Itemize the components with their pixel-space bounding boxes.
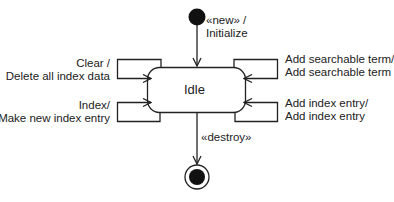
create-action: Initialize [206, 27, 248, 40]
final-state-inner-dot [189, 169, 205, 185]
index-trigger: Index/ [0, 99, 110, 112]
add-term-action: Add searchable term [285, 66, 394, 79]
add-term-trigger: Add searchable term/ [285, 53, 394, 66]
create-trigger: «new» / [206, 14, 248, 27]
add-entry-action: Add index entry [285, 110, 368, 123]
add-entry-trigger: Add index entry/ [285, 97, 368, 110]
index-transition-label: Index/ Make new index entry [0, 99, 110, 125]
initial-state-node [189, 9, 206, 26]
index-action: Make new index entry [0, 112, 110, 125]
add-entry-transition-label: Add index entry/ Add index entry [285, 97, 368, 123]
add-term-transition-label: Add searchable term/ Add searchable term [285, 53, 394, 79]
idle-state-label: Idle [184, 82, 205, 97]
clear-transition-label: Clear / Delete all index data [6, 57, 110, 83]
clear-action: Delete all index data [6, 70, 110, 83]
clear-trigger: Clear / [6, 57, 110, 70]
create-transition-label: «new» / Initialize [206, 14, 248, 40]
destroy-transition-label: «destroy» [201, 131, 252, 144]
